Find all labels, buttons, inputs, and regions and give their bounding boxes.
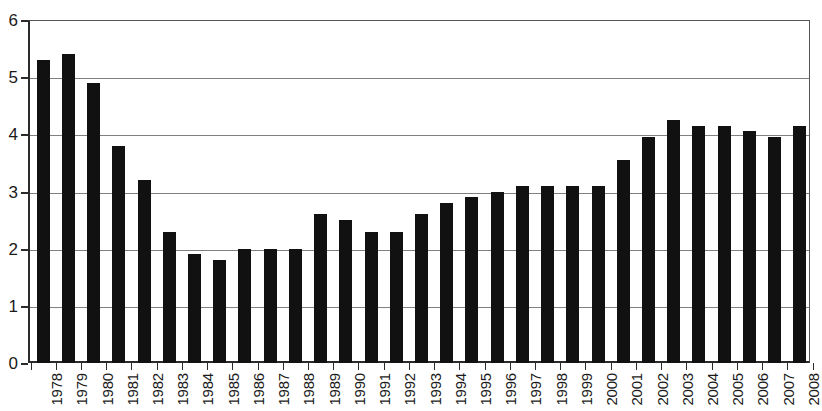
x-tick-label: 1997 <box>528 373 543 406</box>
x-tick-mark <box>31 363 32 370</box>
gridline <box>30 307 809 308</box>
x-tick-label: 2006 <box>755 373 770 406</box>
x-tick-label: 2008 <box>806 373 821 406</box>
x-tick-mark <box>686 363 687 370</box>
x-tick-mark <box>762 363 763 370</box>
x-tick-mark <box>535 363 536 370</box>
x-tick-mark <box>459 363 460 370</box>
y-tick-mark <box>21 363 28 365</box>
x-tick-mark <box>131 363 132 370</box>
x-tick-mark <box>384 363 385 370</box>
x-tick-label: 1987 <box>276 373 291 406</box>
x-tick-mark <box>283 363 284 370</box>
x-tick-mark <box>636 363 637 370</box>
y-tick-label: 5 <box>9 69 18 86</box>
x-tick-label: 1998 <box>554 373 569 406</box>
y-tick-label: 0 <box>9 355 18 372</box>
y-tick-mark <box>21 249 28 251</box>
y-tick-label: 3 <box>9 183 18 200</box>
x-tick-label: 1988 <box>301 373 316 406</box>
x-tick-label: 1986 <box>251 373 266 406</box>
x-tick-label: 2001 <box>629 373 644 406</box>
gridline <box>30 250 809 251</box>
x-tick-label: 1981 <box>125 373 140 406</box>
x-tick-mark <box>157 363 158 370</box>
x-tick-label: 1979 <box>74 373 89 406</box>
x-tick-mark <box>510 363 511 370</box>
plot-area <box>28 20 810 363</box>
x-tick-label: 1999 <box>579 373 594 406</box>
x-tick-mark <box>106 363 107 370</box>
x-tick-label: 1994 <box>453 373 468 406</box>
x-axis: 1978197919801981198219831984198519861987… <box>28 363 810 411</box>
x-tick-label: 1993 <box>428 373 443 406</box>
x-tick-mark <box>661 363 662 370</box>
x-tick-label: 2005 <box>730 373 745 406</box>
x-tick-mark <box>737 363 738 370</box>
y-tick-mark <box>21 77 28 79</box>
y-tick-mark <box>21 306 28 308</box>
x-tick-mark <box>712 363 713 370</box>
x-tick-mark <box>813 363 814 370</box>
x-tick-label: 1984 <box>200 373 215 406</box>
x-tick-label: 1982 <box>150 373 165 406</box>
x-tick-label: 2002 <box>655 373 670 406</box>
x-tick-label: 1989 <box>327 373 342 406</box>
x-tick-label: 2003 <box>680 373 695 406</box>
y-tick-mark <box>21 192 28 194</box>
y-tick-label: 1 <box>9 297 18 314</box>
y-axis: 0123456 <box>0 0 28 411</box>
x-tick-label: 1990 <box>352 373 367 406</box>
x-tick-mark <box>358 363 359 370</box>
x-tick-label: 1991 <box>377 373 392 406</box>
x-tick-mark <box>560 363 561 370</box>
x-tick-label: 2007 <box>781 373 796 406</box>
gridline <box>30 135 809 136</box>
gridline <box>30 78 809 79</box>
y-tick-label: 6 <box>9 12 18 29</box>
x-tick-mark <box>182 363 183 370</box>
x-tick-mark <box>787 363 788 370</box>
y-tick-label: 2 <box>9 240 18 257</box>
x-tick-label: 1995 <box>478 373 493 406</box>
x-tick-label: 1996 <box>503 373 518 406</box>
x-tick-label: 1980 <box>100 373 115 406</box>
x-tick-mark <box>434 363 435 370</box>
x-tick-label: 2004 <box>705 373 720 406</box>
y-tick-label: 4 <box>9 126 18 143</box>
x-tick-mark <box>409 363 410 370</box>
y-tick-mark <box>21 134 28 136</box>
x-tick-label: 2000 <box>604 373 619 406</box>
x-tick-mark <box>585 363 586 370</box>
x-tick-mark <box>258 363 259 370</box>
y-tick-mark <box>21 20 28 22</box>
x-tick-mark <box>485 363 486 370</box>
x-tick-mark <box>611 363 612 370</box>
x-tick-label: 1985 <box>226 373 241 406</box>
x-tick-mark <box>308 363 309 370</box>
x-tick-label: 1992 <box>402 373 417 406</box>
x-tick-label: 1978 <box>49 373 64 406</box>
x-tick-mark <box>81 363 82 370</box>
x-tick-mark <box>56 363 57 370</box>
x-tick-mark <box>232 363 233 370</box>
x-tick-label: 1983 <box>175 373 190 406</box>
x-tick-mark <box>207 363 208 370</box>
gridline <box>30 193 809 194</box>
x-tick-mark <box>333 363 334 370</box>
